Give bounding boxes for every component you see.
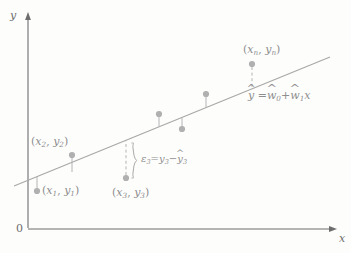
comma: , xyxy=(258,43,262,56)
w-hat-slope: w xyxy=(290,90,299,101)
sub-index: 2 xyxy=(42,140,47,149)
sub-index: 0 xyxy=(276,94,281,103)
var-y-observed: y xyxy=(159,153,165,164)
w-hat-intercept: w xyxy=(267,90,276,101)
x-axis xyxy=(28,226,337,232)
residual-stems xyxy=(37,67,252,188)
comma: , xyxy=(46,135,50,148)
data-points xyxy=(34,61,255,194)
data-point-1 xyxy=(34,188,40,194)
comma: , xyxy=(57,184,61,197)
paren-close: ) xyxy=(145,186,149,199)
figure-canvas xyxy=(0,0,351,253)
regression-figure: y x 0 (x1, y1) (x2, y2) (x3, y3) (xn, yn… xyxy=(0,0,351,253)
regression-equation-label: y =w0+w1x xyxy=(248,90,310,101)
data-point-2 xyxy=(69,152,75,158)
sub-index: n xyxy=(254,48,259,57)
residual-brace xyxy=(132,143,137,178)
sub-index: 3 xyxy=(123,191,128,200)
paren-close: ) xyxy=(75,184,79,197)
regression-line xyxy=(14,57,330,186)
data-point-6 xyxy=(203,91,209,97)
sub-index: 1 xyxy=(300,94,305,103)
x-axis-label: x xyxy=(339,232,345,245)
paren-close: ) xyxy=(276,43,280,56)
var-x: x xyxy=(304,89,310,102)
data-point-5 xyxy=(179,126,185,132)
data-point-n xyxy=(249,61,255,67)
origin-label: 0 xyxy=(16,222,23,235)
sub-index: 3 xyxy=(146,158,150,166)
sub-index: n xyxy=(271,48,276,57)
paren-close: ) xyxy=(64,135,68,148)
sub-index: 3 xyxy=(183,158,187,166)
point-label-1: (x1, y1) xyxy=(42,185,79,196)
var-x: x xyxy=(247,43,253,56)
sub-index: 1 xyxy=(53,189,58,198)
data-point-3 xyxy=(123,175,129,181)
comma: , xyxy=(127,186,131,199)
sub-index: 3 xyxy=(165,158,169,166)
sub-index: 3 xyxy=(140,191,145,200)
y-axis-label: y xyxy=(10,9,16,22)
var-x: x xyxy=(116,186,122,199)
point-label-2: (x2, y2) xyxy=(31,136,68,147)
sub-index: 1 xyxy=(70,189,75,198)
residual-label: ε3=y3−y3 xyxy=(141,154,187,164)
var-x: x xyxy=(46,184,52,197)
point-label-n: (xn, yn) xyxy=(243,44,280,55)
data-point-4 xyxy=(156,111,162,117)
sub-index: 2 xyxy=(59,140,64,149)
y-axis xyxy=(25,12,31,228)
var-x: x xyxy=(35,135,41,148)
y-hat-symbol: y xyxy=(248,90,254,101)
point-label-3: (x3, y3) xyxy=(112,187,149,198)
equals-sign: = xyxy=(151,153,159,164)
